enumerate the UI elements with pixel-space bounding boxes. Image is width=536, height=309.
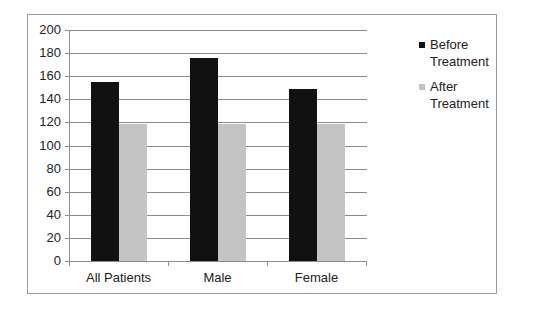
legend-label-after: After Treatment xyxy=(430,78,500,112)
y-tick xyxy=(65,53,70,54)
y-tick-label: 60 xyxy=(21,185,61,199)
legend-swatch-after xyxy=(419,84,425,90)
gridline xyxy=(69,30,367,31)
y-tick xyxy=(65,99,70,100)
y-tick xyxy=(65,192,70,193)
legend-swatch-before xyxy=(419,42,425,48)
bar-before xyxy=(190,58,218,261)
y-tick-label: 200 xyxy=(21,23,61,37)
y-tick-label: 160 xyxy=(21,69,61,83)
y-tick-label: 100 xyxy=(21,139,61,153)
x-tick xyxy=(366,261,367,266)
y-tick xyxy=(65,169,70,170)
x-tick xyxy=(168,261,169,266)
gridline xyxy=(69,76,367,77)
x-axis-line xyxy=(69,261,367,262)
y-tick xyxy=(65,76,70,77)
legend-after-line1: After xyxy=(430,78,500,95)
y-tick xyxy=(65,30,70,31)
x-category-label: Male xyxy=(168,270,267,285)
x-tick xyxy=(69,261,70,266)
y-tick-label: 40 xyxy=(21,208,61,222)
x-category-label: Female xyxy=(267,270,366,285)
y-tick-label: 140 xyxy=(21,92,61,106)
y-tick-label: 120 xyxy=(21,115,61,129)
y-tick-label: 0 xyxy=(21,254,61,268)
bar-after xyxy=(317,124,345,261)
legend-before-line1: Before xyxy=(430,36,500,53)
y-tick xyxy=(65,215,70,216)
y-tick xyxy=(65,122,70,123)
x-category-label: All Patients xyxy=(69,270,168,285)
bar-before xyxy=(91,82,119,261)
bar-after xyxy=(119,124,147,261)
legend-after-line2: Treatment xyxy=(430,95,500,112)
gridline xyxy=(69,53,367,54)
bar-after xyxy=(218,124,246,261)
y-tick-label: 80 xyxy=(21,162,61,176)
x-tick xyxy=(267,261,268,266)
bar-before xyxy=(289,89,317,261)
y-tick xyxy=(65,146,70,147)
y-tick-label: 20 xyxy=(21,231,61,245)
legend-before-line2: Treatment xyxy=(430,53,500,70)
y-tick xyxy=(65,238,70,239)
legend-label-before: Before Treatment xyxy=(430,36,500,70)
y-tick-label: 180 xyxy=(21,46,61,60)
